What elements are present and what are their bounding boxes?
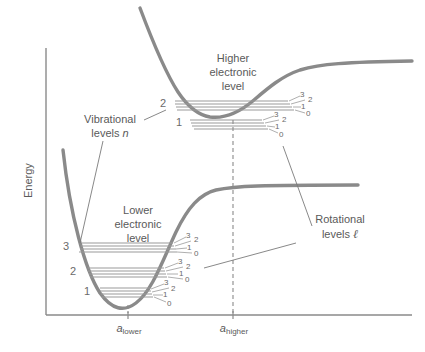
vibrational-levels-label: Vibrational levels n — [62, 113, 158, 141]
vib-label-lower-3: 3 — [63, 240, 69, 252]
rot-label-higher-n1-0: 0 — [279, 130, 283, 139]
rotational-symbol: ℓ — [353, 227, 358, 241]
rot-label-higher-n2-2: 2 — [308, 95, 312, 104]
lower-label-line2: electronic — [88, 218, 188, 232]
rot-label-higher-n2-0: 0 — [306, 109, 310, 118]
rotational-label-line2: levels ℓ — [290, 227, 390, 242]
higher-label-line2: electronic — [178, 66, 288, 80]
rot-label-higher-n2-1: 1 — [301, 102, 305, 111]
a-higher-subscript: higher — [226, 327, 248, 336]
rot-label-lower-n2-0: 0 — [185, 275, 189, 284]
rot-label-lower-n3-0: 0 — [194, 249, 198, 258]
rot-label-lower-n1-3: 3 — [164, 278, 168, 287]
rot-label-lower-n2-2: 2 — [186, 262, 190, 271]
rot-label-lower-n1-1: 1 — [163, 290, 167, 299]
x-tick-label-a-lower: alower — [104, 322, 154, 336]
lower-electronic-level-label: Lower electronic level — [88, 204, 188, 245]
vib-label-higher-2: 2 — [160, 97, 166, 109]
a-lower-symbol: a — [116, 322, 122, 334]
rot-label-lower-n3-1: 1 — [187, 243, 191, 252]
rot-label-higher-n2-3: 3 — [300, 90, 304, 99]
lower-label-line1: Lower — [88, 204, 188, 218]
rot-label-lower-n2-3: 3 — [178, 257, 182, 266]
a-lower-subscript: lower — [123, 327, 142, 336]
leader-rotational-lower — [204, 243, 296, 268]
x-tick-label-a-higher: ahigher — [208, 322, 260, 336]
rot-label-lower-n3-2: 2 — [194, 235, 198, 244]
vib-label-lower-2: 2 — [70, 265, 76, 277]
vibrational-symbol: n — [123, 127, 129, 139]
y-axis-label: Energy — [22, 163, 34, 198]
rot-label-lower-n2-1: 1 — [179, 269, 183, 278]
rot-label-lower-n1-0: 0 — [167, 299, 171, 308]
vibrational-label-line1: Vibrational — [62, 113, 158, 127]
vibrational-label-line2: levels n — [62, 127, 158, 141]
lower-label-line3: level — [88, 232, 188, 246]
higher-label-line3: level — [178, 80, 288, 94]
rotational-levels-label: Rotational levels ℓ — [290, 213, 390, 242]
rot-label-higher-n1-2: 2 — [282, 115, 286, 124]
rot-label-lower-n1-2: 2 — [171, 284, 175, 293]
rotational-label-line1: Rotational — [290, 213, 390, 227]
energy-level-diagram: Energy alower ahigher Higher electronic … — [0, 0, 425, 352]
vib-label-lower-1: 1 — [84, 285, 90, 297]
rot-label-lower-n3-3: 3 — [186, 231, 190, 240]
rot-label-higher-n1-3: 3 — [274, 110, 278, 119]
vib-label-higher-1: 1 — [176, 116, 182, 128]
higher-label-line1: Higher — [178, 52, 288, 66]
higher-electronic-level-label: Higher electronic level — [178, 52, 288, 93]
lower-vibrational-levels — [79, 243, 177, 297]
